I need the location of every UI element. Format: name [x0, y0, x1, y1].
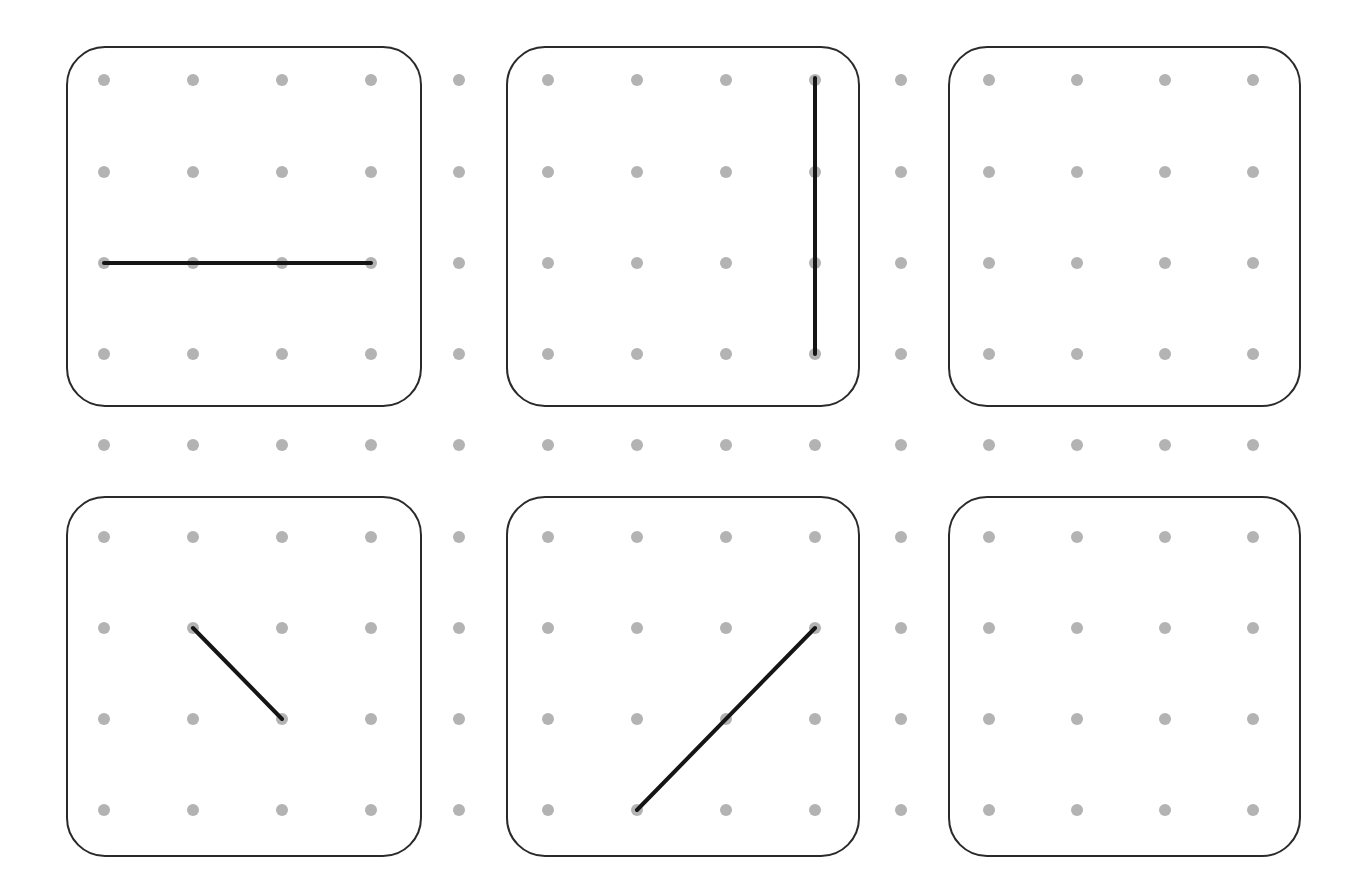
- grid-dot: [631, 348, 643, 360]
- box-2-panel: [507, 47, 859, 406]
- grid-dot: [98, 439, 110, 451]
- grid-dot: [983, 804, 995, 816]
- grid-dot: [1159, 622, 1171, 634]
- grid-dot: [365, 713, 377, 725]
- grid-dot: [98, 74, 110, 86]
- dot-grid: [98, 74, 1259, 816]
- grid-dot: [895, 713, 907, 725]
- grid-dot: [98, 804, 110, 816]
- grid-dot: [98, 622, 110, 634]
- grid-dot: [365, 74, 377, 86]
- grid-dot: [542, 531, 554, 543]
- grid-dot: [1247, 713, 1259, 725]
- grid-dot: [98, 348, 110, 360]
- grid-dot: [365, 166, 377, 178]
- grid-dot: [542, 166, 554, 178]
- grid-dot: [895, 622, 907, 634]
- grid-dot: [276, 622, 288, 634]
- grid-dot: [187, 713, 199, 725]
- grid-dot: [187, 804, 199, 816]
- grid-dot: [542, 439, 554, 451]
- grid-dot: [895, 257, 907, 269]
- grid-dot: [895, 531, 907, 543]
- grid-dot: [98, 166, 110, 178]
- box-6-panel: [949, 497, 1300, 856]
- grid-dot: [1159, 713, 1171, 725]
- grid-dot: [453, 257, 465, 269]
- grid-dot: [895, 166, 907, 178]
- grid-dot: [276, 166, 288, 178]
- grid-dot: [1071, 348, 1083, 360]
- grid-dot: [1247, 439, 1259, 451]
- grid-dot: [895, 74, 907, 86]
- grid-dot: [453, 622, 465, 634]
- grid-dot: [1247, 74, 1259, 86]
- grid-dot: [365, 804, 377, 816]
- grid-dot: [983, 74, 995, 86]
- grid-dot: [720, 257, 732, 269]
- grid-dot: [1247, 804, 1259, 816]
- grid-dot: [1159, 531, 1171, 543]
- grid-dot: [983, 257, 995, 269]
- grid-dot: [365, 439, 377, 451]
- grid-dot: [983, 439, 995, 451]
- grid-dot: [895, 439, 907, 451]
- grid-dot: [98, 531, 110, 543]
- grid-dot: [98, 713, 110, 725]
- grid-dot: [720, 74, 732, 86]
- grid-dot: [1071, 713, 1083, 725]
- grid-dot: [453, 439, 465, 451]
- grid-dot: [542, 348, 554, 360]
- grid-dot: [809, 713, 821, 725]
- grid-dot: [1247, 257, 1259, 269]
- grid-dot: [720, 166, 732, 178]
- grid-dot: [276, 531, 288, 543]
- grid-dot: [631, 531, 643, 543]
- grid-dot: [720, 622, 732, 634]
- grid-dot: [809, 439, 821, 451]
- grid-dot: [187, 166, 199, 178]
- grid-dot: [542, 804, 554, 816]
- box-4-panel: [67, 497, 421, 856]
- grid-dot: [720, 531, 732, 543]
- grid-dot: [631, 622, 643, 634]
- geoboard-panels: [67, 47, 1300, 856]
- grid-dot: [1071, 531, 1083, 543]
- grid-dot: [453, 531, 465, 543]
- grid-dot: [187, 74, 199, 86]
- grid-dot: [365, 622, 377, 634]
- grid-dot: [1247, 531, 1259, 543]
- grid-dot: [1159, 348, 1171, 360]
- grid-dot: [187, 439, 199, 451]
- grid-dot: [809, 804, 821, 816]
- grid-dot: [983, 166, 995, 178]
- grid-dot: [1159, 166, 1171, 178]
- grid-dot: [983, 622, 995, 634]
- grid-dot: [1071, 439, 1083, 451]
- grid-dot: [187, 348, 199, 360]
- grid-dot: [1071, 74, 1083, 86]
- grid-dot: [276, 74, 288, 86]
- geoboard-canvas: [0, 0, 1352, 896]
- grid-dot: [720, 348, 732, 360]
- grid-dot: [720, 804, 732, 816]
- grid-dot: [276, 439, 288, 451]
- grid-dot: [1159, 74, 1171, 86]
- grid-dot: [453, 713, 465, 725]
- grid-dot: [453, 166, 465, 178]
- box-5-segment: [637, 628, 815, 810]
- grid-dot: [1159, 804, 1171, 816]
- grid-dot: [276, 804, 288, 816]
- grid-dot: [1159, 257, 1171, 269]
- grid-dot: [1071, 622, 1083, 634]
- grid-dot: [1071, 166, 1083, 178]
- box-5-panel: [507, 497, 859, 856]
- grid-dot: [542, 74, 554, 86]
- grid-dot: [1071, 257, 1083, 269]
- grid-dot: [720, 439, 732, 451]
- grid-dot: [187, 531, 199, 543]
- grid-dot: [1247, 166, 1259, 178]
- grid-dot: [365, 348, 377, 360]
- grid-dot: [1247, 622, 1259, 634]
- grid-dot: [365, 531, 377, 543]
